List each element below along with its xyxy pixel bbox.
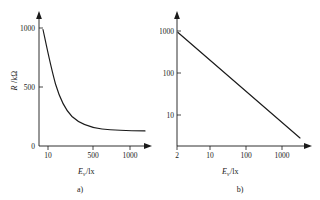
y-tick-label-b-100: 100: [163, 69, 175, 78]
x-axis-arrow-b: [304, 143, 312, 149]
y-axis-title-text-a: R: [10, 85, 19, 91]
plot-b: 1000 100 10 2 10 100 1000 R /kΩ E v /lx …: [160, 0, 320, 200]
y-axis-a: [36, 11, 42, 146]
figure-panel-b: 1000 100 10 2 10 100 1000 R /kΩ E v /lx …: [160, 0, 320, 200]
y-ticks-a: [39, 28, 43, 87]
x-ticks-a: [48, 146, 130, 150]
x-tick-label-a-500: 500: [87, 151, 99, 160]
x-axis-arrow-a: [144, 143, 152, 149]
x-axis-unit-a: /lx: [86, 167, 94, 176]
x-tick-label-a-10: 10: [44, 151, 52, 160]
x-tick-label-b-10: 10: [206, 151, 214, 160]
x-ticks-b: [177, 146, 282, 150]
data-curve-a: [43, 30, 145, 131]
figure-page: 1000 500 0 10 500 1000 R /kΩ E v /lx a): [0, 0, 320, 200]
y-tick-label-b-1000: 1000: [160, 27, 174, 36]
caption-b: b): [237, 185, 244, 194]
x-axis-title-b: E v /lx: [221, 167, 238, 177]
figure-panel-a: 1000 500 0 10 500 1000 R /kΩ E v /lx a): [0, 0, 160, 200]
y-tick-label-a-500: 500: [24, 83, 36, 92]
x-tick-label-b-100: 100: [240, 151, 252, 160]
y-axis-arrow-a: [36, 11, 42, 19]
y-ticks-b: [177, 31, 181, 115]
x-tick-label-b-1000: 1000: [275, 151, 290, 160]
caption-a: a): [77, 185, 84, 194]
y-axis-title-a: R /kΩ: [10, 71, 19, 92]
y-axis-unit-a: /kΩ: [10, 71, 19, 83]
y-tick-label-a-1000: 1000: [20, 24, 35, 33]
x-axis-unit-b: /lx: [230, 167, 238, 176]
x-axis-b: [177, 143, 312, 149]
y-tick-label-a-0: 0: [31, 142, 35, 151]
x-axis-a: [39, 143, 152, 149]
data-curve-b: [178, 33, 300, 139]
x-axis-title-a: E v /lx: [77, 167, 94, 177]
x-tick-label-a-1000: 1000: [123, 151, 138, 160]
x-tick-label-b-2: 2: [175, 151, 179, 160]
y-tick-label-b-10: 10: [167, 111, 175, 120]
y-axis-arrow-b: [174, 11, 180, 19]
plot-a: 1000 500 0 10 500 1000 R /kΩ E v /lx a): [0, 0, 160, 200]
